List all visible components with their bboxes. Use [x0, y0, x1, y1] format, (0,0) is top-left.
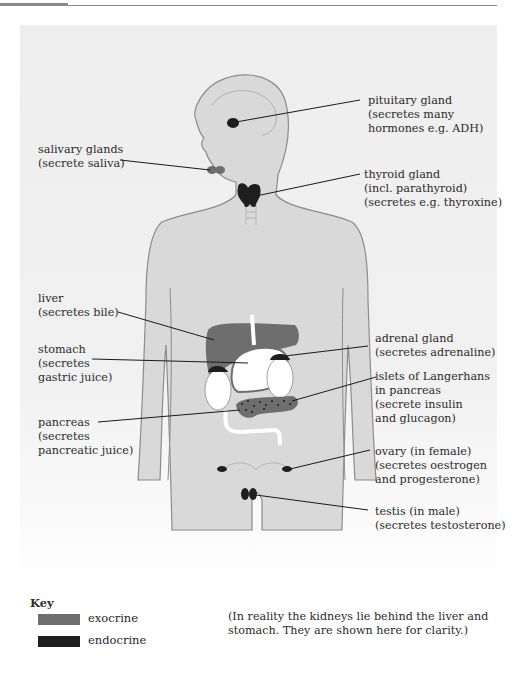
label-islets-of-langerhans: islets of Langerhansin pancreas(secrete …	[375, 370, 490, 426]
key-label-endocrine: endocrine	[88, 633, 146, 647]
label-stomach: stomach(secretesgastric juice)	[38, 343, 112, 385]
label-liver: liver(secretes bile)	[38, 292, 119, 320]
salivary-gland-right	[215, 166, 225, 174]
key-title: Key	[30, 596, 54, 610]
kidney-right	[267, 358, 293, 398]
key-swatch-endocrine	[38, 636, 80, 647]
kidney-note: (In reality the kidneys lie behind the l…	[228, 610, 488, 638]
label-adrenal-gland: adrenal gland(secretes adrenaline)	[375, 332, 495, 360]
label-thyroid-gland: thyroid gland(incl. parathyroid)(secrete…	[364, 168, 502, 210]
testis-left	[241, 488, 249, 500]
kidney-left	[205, 370, 231, 410]
body-silhouette	[138, 75, 376, 530]
oesophagus	[252, 315, 254, 345]
testis-right	[249, 488, 257, 500]
label-ovary: ovary (in female)(secretes oestrogenand …	[375, 445, 487, 487]
key-label-exocrine: exocrine	[88, 611, 138, 625]
ovary-left	[217, 466, 227, 472]
label-testis: testis (in male)(secretes testosterone)	[375, 505, 506, 533]
label-pituitary-gland: pituitary gland(secretes manyhormones e.…	[368, 94, 483, 136]
pituitary-gland	[227, 118, 239, 128]
label-salivary-glands: salivary glands(secrete saliva)	[38, 143, 125, 171]
label-pancreas: pancreas(secretespancreatic juice)	[38, 416, 133, 458]
key-swatch-exocrine	[38, 614, 80, 625]
